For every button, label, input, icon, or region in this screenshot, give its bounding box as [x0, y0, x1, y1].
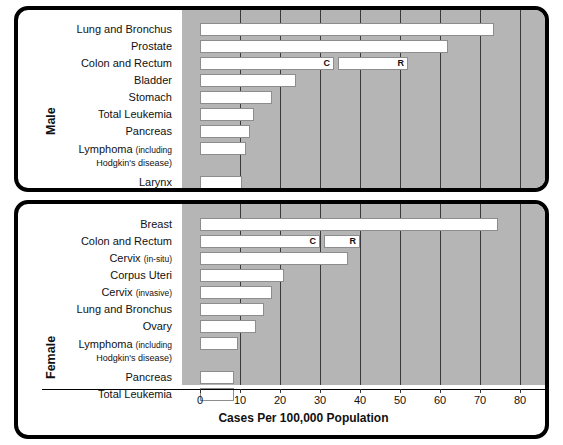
x-tick-80: [520, 389, 521, 393]
bar-row: [182, 38, 545, 55]
category-labels-male: Lung and BronchusProstateColon and Rectu…: [18, 21, 178, 192]
x-tick-label: 20: [265, 394, 295, 406]
bar-row: [182, 72, 545, 89]
x-tick-70: [480, 389, 481, 393]
bar-row: [182, 250, 545, 267]
category-labels-female: BreastColon and RectumCervix (in-situ)Co…: [18, 216, 178, 403]
category-label-qualifier: (invasive): [136, 288, 172, 298]
category-label-text: Lung and Bronchus: [77, 23, 172, 35]
category-label: Larynx: [18, 174, 178, 191]
category-label: Pancreas: [18, 123, 178, 140]
category-label: Bladder: [18, 72, 178, 89]
bar: [200, 269, 284, 282]
category-label-text: Breast: [140, 218, 172, 230]
bar-row: [182, 123, 545, 140]
panel-male: CR Lung and BronchusProstateColon and Re…: [14, 6, 549, 192]
x-axis-line: [42, 389, 545, 390]
bar: [200, 371, 234, 384]
category-label-subline: Hodgkin's disease): [18, 157, 172, 169]
category-label-text: Prostate: [131, 40, 172, 52]
category-label: Ovary: [18, 318, 178, 335]
bar: [200, 218, 498, 231]
category-label: Cervix (invasive): [18, 284, 178, 301]
category-label-qualifier: (including: [136, 340, 172, 350]
bar: [200, 91, 272, 104]
bar-row: [182, 216, 545, 233]
x-tick-0: [200, 389, 201, 393]
category-label-text: Lymphoma: [79, 143, 136, 155]
bar: [200, 303, 264, 316]
bar-row: [182, 89, 545, 106]
category-label-text: Lung and Bronchus: [77, 303, 172, 315]
bar-row: [182, 267, 545, 284]
category-label-text: Colon and Rectum: [81, 57, 172, 69]
category-label-text: Pancreas: [126, 125, 172, 137]
category-label: Kidney: [18, 191, 178, 192]
x-tick-label: 80: [505, 394, 535, 406]
category-label: Stomach: [18, 89, 178, 106]
category-label: Lung and Bronchus: [18, 21, 178, 38]
x-tick-label: 60: [425, 394, 455, 406]
category-label: Lymphoma (includingHodgkin's disease): [18, 140, 178, 174]
x-tick-10: [240, 389, 241, 393]
panel-female: CR BreastColon and RectumCervix (in-situ…: [14, 200, 549, 439]
bar: [200, 40, 448, 53]
group-label-male: Male: [44, 107, 58, 135]
category-label-text: Total Leukemia: [98, 108, 172, 120]
x-axis: Cases Per 100,000 Population 01020304050…: [182, 389, 545, 439]
x-tick-20: [280, 389, 281, 393]
bar-row: [182, 106, 545, 123]
x-axis-title: Cases Per 100,000 Population: [122, 411, 485, 425]
bar-row: [182, 140, 545, 174]
bar: [200, 286, 272, 299]
category-label-text: Ovary: [143, 320, 172, 332]
category-label: Breast: [18, 216, 178, 233]
x-tick-50: [400, 389, 401, 393]
category-label-subline: Hodgkin's disease): [18, 352, 172, 364]
bar: [200, 320, 256, 333]
x-tick-label: 40: [345, 394, 375, 406]
group-label-female: Female: [44, 336, 58, 379]
bar-row: [182, 318, 545, 335]
category-label: Lymphoma (includingHodgkin's disease): [18, 335, 178, 369]
bar-row: [182, 369, 545, 386]
x-tick-30: [320, 389, 321, 393]
category-label-qualifier: (including: [136, 145, 172, 155]
x-tick-60: [440, 389, 441, 393]
category-label: Colon and Rectum: [18, 55, 178, 72]
x-tick-label: 70: [465, 394, 495, 406]
category-label: Lung and Bronchus: [18, 301, 178, 318]
bar-row: [182, 191, 545, 192]
bar-row: [182, 174, 545, 191]
category-label-qualifier: (in-situ): [144, 254, 172, 264]
bar: [200, 142, 246, 155]
bar-segment-label-c: C: [200, 235, 316, 248]
category-label-text: Colon and Rectum: [81, 235, 172, 247]
category-label-text: Pancreas: [126, 371, 172, 383]
category-label-text: Lymphoma: [79, 338, 136, 350]
x-tick-label: 30: [305, 394, 335, 406]
category-label-text: Cervix: [101, 286, 135, 298]
category-label-text: Stomach: [129, 91, 172, 103]
x-tick-label: 10: [225, 394, 255, 406]
category-label: Corpus Uteri: [18, 267, 178, 284]
category-label-text: Larynx: [139, 176, 172, 188]
chart-page: CR Lung and BronchusProstateColon and Re…: [0, 0, 563, 445]
bar-row: [182, 335, 545, 369]
category-label: Cervix (in-situ): [18, 250, 178, 267]
category-label: Prostate: [18, 38, 178, 55]
x-tick-label: 0: [185, 394, 215, 406]
bar-row: [182, 301, 545, 318]
category-label-text: Corpus Uteri: [110, 269, 172, 281]
category-label: Colon and Rectum: [18, 233, 178, 250]
category-label: Total Leukemia: [18, 106, 178, 123]
bar: [200, 125, 250, 138]
category-label-text: Cervix: [109, 252, 143, 264]
bar: [200, 176, 242, 189]
bar: [200, 108, 254, 121]
bar-segment-label-r: R: [324, 235, 356, 248]
bar: [200, 252, 348, 265]
bars-male: CR: [182, 21, 545, 192]
category-label-text: Bladder: [134, 74, 172, 86]
bar: [200, 337, 238, 350]
